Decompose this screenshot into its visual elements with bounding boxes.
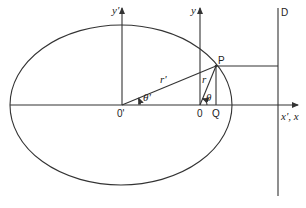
- p-label: P: [218, 55, 225, 66]
- r-prime-label: r': [160, 73, 167, 85]
- origin-prime-label: 0': [117, 108, 125, 119]
- q-label: Q: [212, 108, 220, 119]
- theta-prime-label: θ': [143, 91, 151, 103]
- y-label: y: [190, 4, 196, 16]
- theta-prime-arc: [139, 98, 140, 105]
- x-axes-label: x', x: [280, 110, 299, 122]
- origin-label: 0: [197, 108, 203, 119]
- y-prime-label: y': [111, 4, 120, 16]
- d-label: D: [281, 7, 288, 18]
- point-p-marker: [215, 65, 218, 68]
- theta-label: θ: [206, 91, 212, 103]
- r-label: r: [202, 73, 207, 85]
- ellipse-diagram: y' y D P r' r θ' θ 0' 0 Q x', x: [0, 0, 306, 208]
